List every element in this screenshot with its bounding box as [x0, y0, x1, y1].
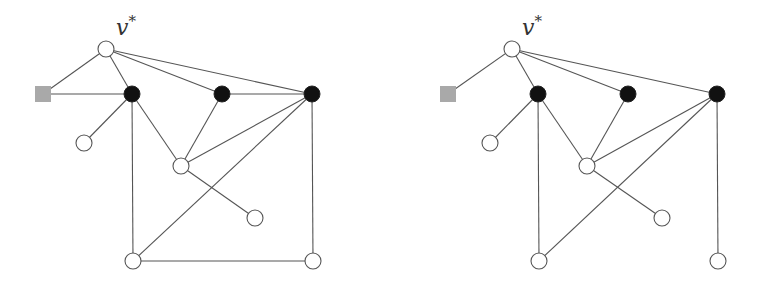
edge-w2-w3 [587, 166, 662, 218]
vertex-label-vstar: v* [522, 12, 542, 40]
black-vertex-b3 [304, 86, 320, 102]
white-vertex-w3 [247, 210, 263, 226]
edge-b3-w5 [717, 94, 718, 261]
edge-b1-w2 [538, 94, 587, 166]
edge-b1-w1 [490, 94, 538, 143]
node-layer [35, 41, 321, 269]
white-vertex-w1 [482, 135, 498, 151]
vertex-label-vstar: v* [116, 12, 136, 40]
edge-vstar-b2 [106, 49, 222, 94]
edge-b1-w1 [84, 94, 132, 143]
white-vertex-w1 [76, 135, 92, 151]
edge-w2-w3 [181, 166, 255, 218]
edge-vstar-sq [43, 49, 106, 94]
edge-layer [448, 49, 718, 261]
edge-b1-w4 [132, 94, 133, 261]
white-vertex-w2 [173, 158, 189, 174]
black-vertex-b1 [530, 86, 546, 102]
black-vertex-b3 [709, 86, 725, 102]
edge-b1-w4 [538, 94, 539, 261]
square-vertex-icon [35, 86, 51, 102]
white-vertex-w5 [710, 253, 726, 269]
black-vertex-b2 [620, 86, 636, 102]
black-vertex-b1 [124, 86, 140, 102]
graph-figure: v* v* [0, 0, 758, 285]
white-vertex-vstar [98, 41, 114, 57]
white-vertex-w5 [305, 253, 321, 269]
edge-b1-w2 [132, 94, 181, 166]
edge-vstar-b2 [512, 49, 628, 94]
edge-b3-w4 [539, 94, 717, 261]
white-vertex-w4 [531, 253, 547, 269]
white-vertex-vstar [504, 41, 520, 57]
node-layer [440, 41, 726, 269]
white-vertex-w2 [579, 158, 595, 174]
edge-layer [43, 49, 313, 261]
square-vertex-icon [440, 86, 456, 102]
edge-b3-w5 [312, 94, 313, 261]
edge-vstar-sq [448, 49, 512, 94]
white-vertex-w4 [125, 253, 141, 269]
graph-panel-left: v* [35, 12, 321, 269]
graph-panel-right: v* [440, 12, 726, 269]
edge-b3-w4 [133, 94, 312, 261]
black-vertex-b2 [214, 86, 230, 102]
white-vertex-w3 [654, 210, 670, 226]
